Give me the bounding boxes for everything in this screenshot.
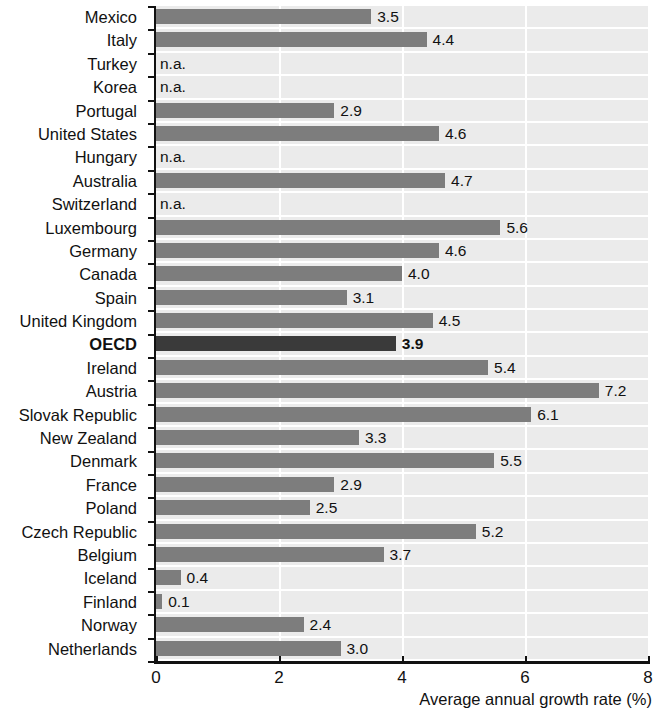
bar [156,243,439,258]
bar [156,313,433,328]
category-label: Poland [0,497,146,520]
category-label: Korea [0,76,146,99]
y-axis-tick [148,170,155,172]
bar-row: 2.4 [156,614,648,637]
category-label: Canada [0,263,146,286]
x-axis-tick-label: 0 [151,668,160,688]
bar [156,477,334,492]
bar [156,266,402,281]
bar-row: 4.6 [156,240,648,263]
bar [156,336,396,351]
category-label: Ireland [0,357,146,380]
y-axis-tick [148,217,155,219]
category-label: Czech Republic [0,521,146,544]
bar-row: 2.9 [156,100,648,123]
bar-value-label: 5.6 [500,217,528,238]
bar-value-label: 2.5 [310,497,338,518]
bar-value-label: 4.5 [433,310,461,331]
x-axis-tick [648,656,650,662]
y-axis-tick [148,310,155,312]
y-axis-tick [148,521,155,523]
bar-value-label: 3.7 [384,544,412,565]
bar-value-label: 2.9 [334,100,362,121]
x-axis-tick [402,656,404,662]
bar [156,524,476,539]
bar-value-label: 2.9 [334,474,362,495]
bar-row: 7.2 [156,380,648,403]
bar [156,430,359,445]
category-label: Spain [0,287,146,310]
y-axis-tick [148,568,155,570]
na-label: n.a. [160,76,186,97]
y-axis-tick [148,591,155,593]
bar [156,360,488,375]
bar-row: 2.5 [156,497,648,520]
y-axis-tick [148,29,155,31]
category-label-column: MexicoItalyTurkeyKoreaPortugalUnited Sta… [0,6,146,661]
bar-row: n.a. [156,146,648,169]
category-label: France [0,474,146,497]
category-label: Italy [0,29,146,52]
y-axis-tick [148,638,155,640]
y-axis-tick [148,193,155,195]
y-axis-tick [148,6,155,8]
category-label: Turkey [0,53,146,76]
bar [156,570,181,585]
category-label: Denmark [0,450,146,473]
bar-row: 3.9 [156,333,648,356]
y-axis-tick [148,123,155,125]
bar-row: 0.4 [156,567,648,590]
bar [156,126,439,141]
bar-row: 4.0 [156,263,648,286]
y-axis-tick [148,451,155,453]
bar-value-label: 5.5 [494,450,522,471]
na-label: n.a. [160,146,186,167]
x-axis-tick-label: 2 [274,668,283,688]
category-label: United States [0,123,146,146]
category-label: Slovak Republic [0,404,146,427]
bar-row: 3.1 [156,287,648,310]
bar-value-label: 3.5 [371,6,399,27]
y-axis-tick [148,614,155,616]
bar [156,220,500,235]
bar [156,547,384,562]
category-label: Luxembourg [0,217,146,240]
bar [156,407,531,422]
bar-row: 4.7 [156,170,648,193]
y-axis-tick [148,240,155,242]
bar [156,617,304,632]
category-label: Iceland [0,567,146,590]
category-label: OECD [0,333,146,356]
bar-row: 3.3 [156,427,648,450]
x-axis-tick-label: 4 [397,668,406,688]
bar-value-label: 2.4 [304,614,332,635]
bar [156,453,494,468]
category-label: Belgium [0,544,146,567]
y-axis-tick [148,287,155,289]
bar [156,173,445,188]
bar-value-label: 0.4 [181,567,209,588]
bar-row: 5.6 [156,217,648,240]
category-label: Switzerland [0,193,146,216]
bar-value-label: 5.4 [488,357,516,378]
bar-row: 3.7 [156,544,648,567]
bar-row: 0.1 [156,591,648,614]
bar-value-label: 3.0 [341,638,369,659]
bar-value-label: 0.1 [162,591,190,612]
y-axis-tick [148,404,155,406]
bar-row: 5.5 [156,450,648,473]
y-axis-tick [148,544,155,546]
bar-row: 2.9 [156,474,648,497]
bar-value-label: 3.3 [359,427,387,448]
category-label: Hungary [0,146,146,169]
y-axis-tick [148,263,155,265]
y-axis-tick [148,334,155,336]
bar-value-label: 4.7 [445,170,473,191]
x-axis-tick-label: 6 [520,668,529,688]
x-axis-tick [156,656,158,662]
category-label: Australia [0,170,146,193]
bar [156,290,347,305]
bar [156,383,599,398]
plot-area: 3.54.4n.a.n.a.2.94.6n.a.4.7n.a.5.64.64.0… [156,6,648,661]
y-axis-tick [148,357,155,359]
